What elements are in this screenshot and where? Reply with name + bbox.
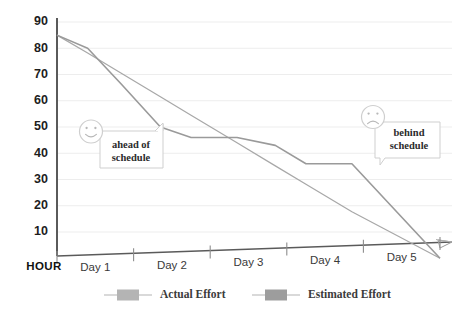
x-tick-label-day-1[interactable]: Day 1: [80, 261, 110, 273]
burndown-chart: 908070605040302010 Day 1Day 2Day 3Day 4D…: [0, 0, 472, 314]
y-tick-label-70: 70: [34, 67, 48, 81]
legend-label-estimated: Estimated Effort: [308, 288, 391, 300]
y-tick-label-90: 90: [34, 14, 48, 28]
legend-swatch-actual: [117, 290, 139, 301]
callout-ahead-line1: ahead of: [112, 139, 151, 150]
y-tick-label-30: 30: [34, 172, 48, 186]
x-tick-label-day-4[interactable]: Day 4: [310, 254, 341, 266]
y-tick-label-50: 50: [34, 119, 48, 133]
chart-legend: Actual Effort Estimated Effort: [104, 288, 391, 300]
y-tick-label-40: 40: [34, 146, 48, 160]
x-tick-label-day-2[interactable]: Day 2: [157, 259, 187, 271]
callout-ahead-line2: schedule: [112, 152, 151, 163]
annotation-behind-schedule: behind schedule: [362, 106, 441, 166]
legend-item-actual-effort[interactable]: Actual Effort: [104, 288, 226, 300]
y-tick-label-80: 80: [34, 41, 48, 55]
legend-swatch-estimated: [265, 290, 287, 301]
chart-canvas: 908070605040302010 Day 1Day 2Day 3Day 4D…: [0, 0, 472, 314]
y-tick-label-60: 60: [34, 93, 48, 107]
y-tick-label-20: 20: [34, 198, 48, 212]
callout-behind-line2: schedule: [390, 140, 429, 151]
callout-behind-line1: behind: [394, 127, 425, 138]
legend-item-estimated-effort[interactable]: Estimated Effort: [252, 288, 391, 300]
x-tick-labels: Day 1Day 2Day 3Day 4Day 5: [80, 251, 416, 273]
sad-face-icon: [362, 106, 385, 129]
x-tick-label-day-3[interactable]: Day 3: [233, 256, 263, 268]
y-tick-labels: 908070605040302010: [34, 14, 48, 238]
y-tick-label-10: 10: [34, 224, 48, 238]
x-axis-caption: HOUR: [26, 260, 62, 272]
legend-label-actual: Actual Effort: [160, 288, 226, 300]
x-tick-label-day-5[interactable]: Day 5: [387, 251, 417, 263]
smiley-face-icon: [80, 120, 103, 143]
